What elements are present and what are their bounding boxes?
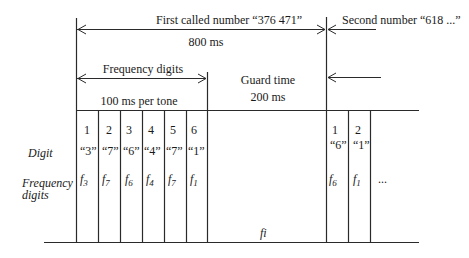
guard-time-label: Guard time bbox=[241, 73, 295, 87]
tone-frequency: f7 bbox=[102, 172, 110, 188]
second-number-label: Second number “618 ...” bbox=[342, 13, 461, 27]
guard-time-duration: 200 ms bbox=[250, 90, 285, 104]
tone-digit: “1” bbox=[188, 144, 205, 158]
tone-index: 1 bbox=[332, 123, 338, 137]
tone-frequency: f6 bbox=[329, 172, 337, 188]
tone-index: 4 bbox=[148, 123, 154, 137]
tone-index: 3 bbox=[126, 123, 132, 137]
mf-signalling-timing-diagram: First called number “376 471” 800 ms Sec… bbox=[0, 0, 469, 258]
tone-frequency: f1 bbox=[353, 172, 361, 188]
tone-index: 5 bbox=[170, 123, 176, 137]
tone-digit: “1” bbox=[353, 138, 370, 152]
tone-digit: “3” bbox=[80, 144, 97, 158]
second-number-tones: 1 “6” f6 2 “1” f1 ... bbox=[329, 123, 387, 188]
tone-digit: “6” bbox=[123, 144, 140, 158]
tone-digit: “4” bbox=[144, 144, 161, 158]
tone-frequency: f7 bbox=[168, 172, 176, 188]
tone-digit: “7” bbox=[166, 144, 183, 158]
tone-index: 2 bbox=[106, 123, 112, 137]
first-number-duration: 800 ms bbox=[188, 35, 223, 49]
digit-row-label: Digit bbox=[27, 146, 53, 160]
tone-index: 6 bbox=[191, 123, 197, 137]
tone-frequency: f4 bbox=[146, 172, 154, 188]
tone-frequency: f3 bbox=[80, 172, 88, 188]
tone-digit: “6” bbox=[330, 138, 347, 152]
frequency-digits-label: Frequency digits bbox=[103, 62, 184, 76]
tone-index: 1 bbox=[84, 123, 90, 137]
tone-digit: “7” bbox=[102, 144, 119, 158]
per-tone-label: 100 ms per tone bbox=[101, 94, 178, 108]
first-number-label: First called number “376 471” bbox=[156, 13, 302, 27]
tone-frequency: f1 bbox=[190, 172, 198, 188]
frequency-row-label-line2: digits bbox=[22, 188, 49, 202]
diagram-lines bbox=[44, 17, 419, 243]
tone-frequency: f6 bbox=[125, 172, 133, 188]
tone-index: 2 bbox=[355, 123, 361, 137]
continuation-ellipsis: ... bbox=[378, 172, 387, 186]
guard-frequency-label: fi bbox=[260, 226, 267, 240]
